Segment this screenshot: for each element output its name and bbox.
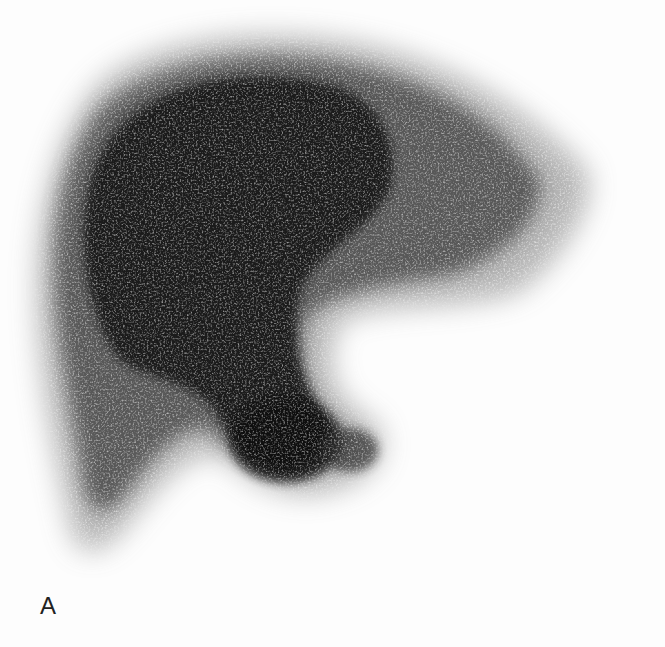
scan-image [0,0,665,647]
panel-label: A [40,592,56,620]
scan-figure: A [0,0,665,647]
